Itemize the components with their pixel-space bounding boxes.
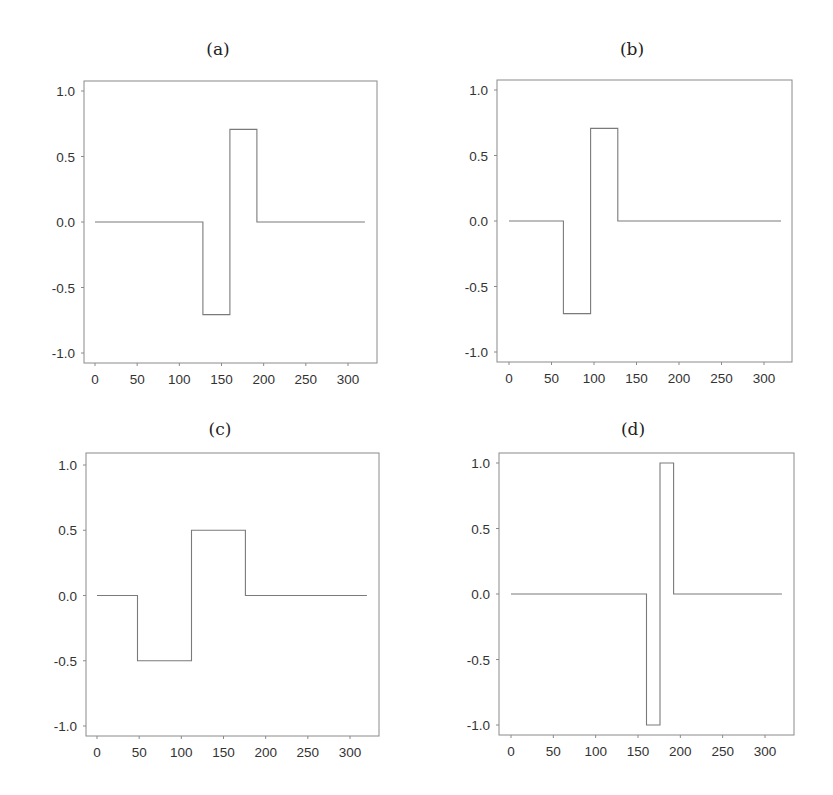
y-tick-label: -1.0 xyxy=(467,718,490,733)
x-tick-label: 150 xyxy=(627,744,650,759)
y-tick-label: -0.5 xyxy=(467,653,490,668)
plot-area: -1.0-0.50.00.51.0050100150200250300 xyxy=(0,0,833,795)
x-tick-label: 250 xyxy=(711,744,734,759)
panel-d: (d) -1.0-0.50.00.51.0050100150200250300 xyxy=(0,0,833,795)
data-series-line xyxy=(511,463,782,725)
x-tick-label: 50 xyxy=(546,744,561,759)
x-tick-label: 0 xyxy=(507,744,515,759)
x-tick-label: 100 xyxy=(584,744,607,759)
x-tick-label: 300 xyxy=(754,744,777,759)
y-tick-label: 1.0 xyxy=(471,456,490,471)
x-tick-label: 200 xyxy=(669,744,692,759)
y-tick-label: 0.5 xyxy=(471,522,490,537)
y-tick-label: 0.0 xyxy=(471,587,490,602)
